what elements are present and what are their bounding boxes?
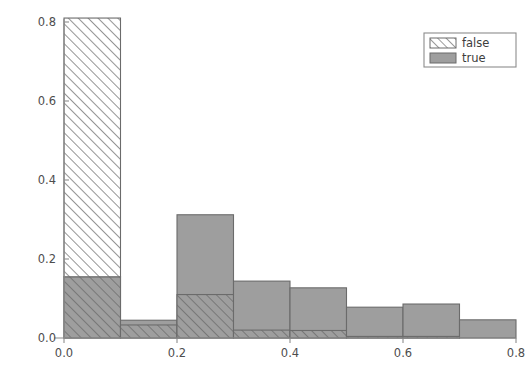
bar-false-overlap — [290, 330, 347, 338]
y-tick-label: 0.4 — [38, 173, 56, 187]
histogram-bin — [403, 304, 460, 338]
x-tick-label: 0.4 — [281, 346, 299, 360]
legend-label-false: false — [462, 36, 489, 50]
histogram-bin — [234, 281, 291, 338]
histogram-bin — [460, 320, 517, 338]
histogram-bin — [121, 320, 178, 338]
x-tick-label: 0.8 — [507, 346, 525, 360]
x-axis-ticks: 0.00.20.40.60.8 — [55, 338, 525, 360]
histogram-bin — [347, 307, 404, 338]
y-tick-label: 0.2 — [38, 252, 56, 266]
bar-false — [64, 18, 121, 277]
y-tick-label: 0.0 — [38, 331, 56, 345]
histogram-chart: 0.00.20.40.60.8 0.00.20.40.60.8 falsetru… — [0, 0, 529, 375]
bar-true — [403, 304, 460, 338]
x-tick-label: 0.2 — [168, 346, 186, 360]
bar-true — [234, 281, 291, 338]
histogram-bin — [290, 288, 347, 338]
histogram-bin — [64, 18, 121, 338]
bar-false-overlap — [121, 325, 178, 338]
legend-swatch-false — [430, 38, 456, 48]
bar-true — [347, 307, 404, 338]
bar-true — [460, 320, 517, 338]
y-tick-label: 0.8 — [38, 15, 56, 29]
legend-swatch-true — [430, 53, 456, 63]
histogram-bin — [177, 215, 234, 338]
bar-false-overlap — [177, 295, 234, 338]
bar-false-overlap — [64, 277, 121, 338]
x-tick-label: 0.6 — [394, 346, 412, 360]
y-tick-label: 0.6 — [38, 94, 56, 108]
legend-label-true: true — [462, 51, 486, 65]
chart-legend[interactable]: falsetrue — [424, 33, 516, 67]
bar-false-overlap — [234, 330, 291, 338]
plot-area: 0.00.20.40.60.8 0.00.20.40.60.8 falsetru… — [0, 0, 529, 375]
x-tick-label: 0.0 — [55, 346, 73, 360]
